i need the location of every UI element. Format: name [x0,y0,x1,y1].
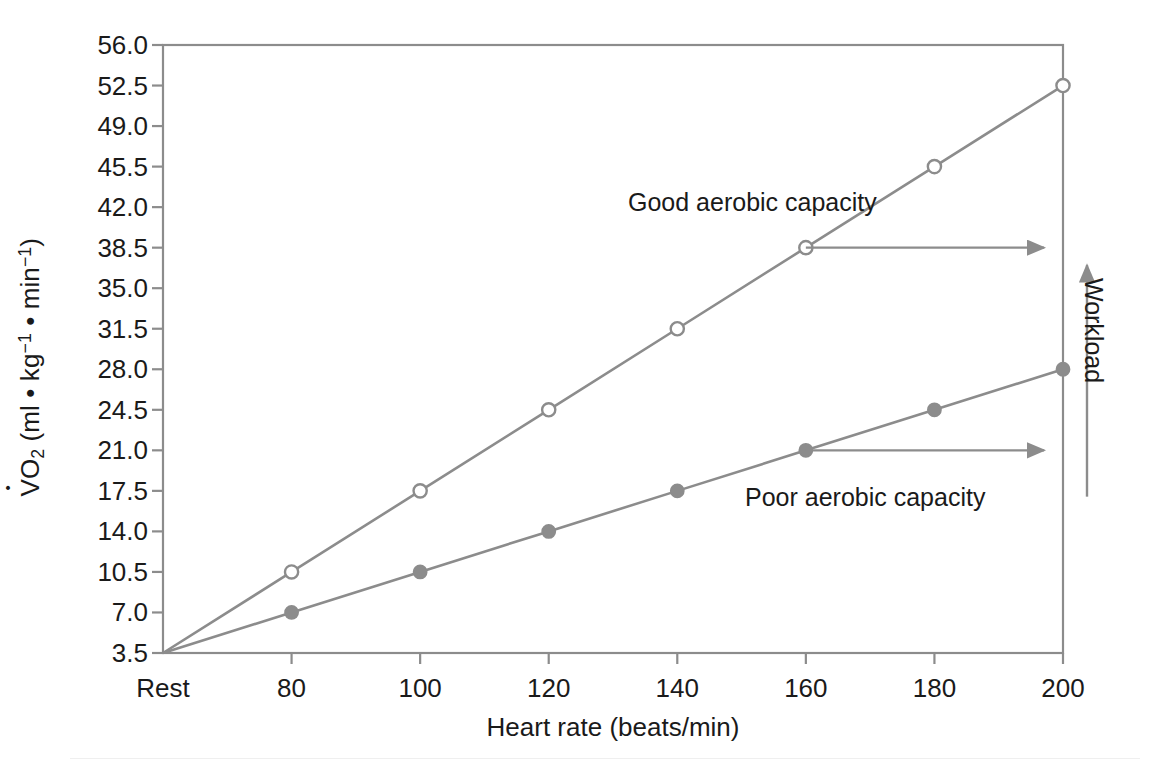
data-point-good-7 [1056,79,1069,92]
data-point-poor-7 [1056,363,1069,376]
annotation-poor-aerobic-capacity: Poor aerobic capacity [745,483,985,512]
data-point-poor-6 [928,403,941,416]
plot-frame [163,45,1063,653]
data-point-good-2 [414,484,427,497]
annotation-arrows [806,248,1087,497]
data-point-good-6 [928,160,941,173]
chart-figure: VO2 (ml • kg−1 • min−1) 3.57.010.514.017… [0,0,1154,769]
data-point-poor-2 [414,565,427,578]
plot-border [163,45,1063,653]
annotation-good-aerobic-capacity: Good aerobic capacity [628,188,877,217]
data-point-good-1 [285,565,298,578]
data-point-good-3 [542,403,555,416]
data-point-poor-4 [671,484,684,497]
data-point-poor-3 [542,525,555,538]
data-point-good-4 [671,322,684,335]
annotation-workload: Workload [1079,278,1108,383]
footer-rule [70,758,1140,759]
data-point-poor-1 [285,606,298,619]
data-series [163,79,1070,653]
plot-area [0,0,1154,769]
